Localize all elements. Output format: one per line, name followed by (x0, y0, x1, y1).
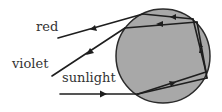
label-sunlight: sunlight (62, 70, 116, 85)
sunlight-ray (60, 91, 138, 98)
violet-ray (52, 28, 125, 76)
arrow-right-icon (100, 91, 107, 98)
rainbow-raindrop-diagram: red violet sunlight (0, 0, 222, 112)
label-red: red (36, 19, 58, 34)
label-violet: violet (11, 56, 49, 71)
